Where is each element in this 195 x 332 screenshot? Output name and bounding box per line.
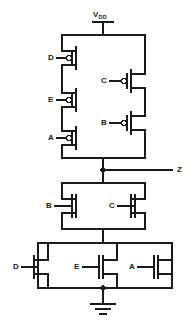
nmos-a-label: A [129,263,135,271]
pmos-a-gate-bubble-icon [67,136,72,141]
vdd-label: VDD [93,11,107,19]
pmos-e-gate-bubble-icon [67,98,72,103]
circuit-schematic [0,0,195,332]
pmos-b-label: B [101,119,107,127]
output-z-label: Z [177,166,182,174]
pmos-b-gate-bubble-icon [122,121,127,126]
pmos-c-gate-bubble-icon [122,79,127,84]
pmos-a-label: A [48,134,54,142]
nmos-b-label: B [46,202,52,210]
schematic-canvas: VDD D E A C B Z B C D E A [0,0,195,332]
pmos-d-gate-bubble-icon [67,56,72,61]
pmos-e-label: E [48,96,54,104]
nmos-e-label: E [74,263,80,271]
vdd-label-main: V [93,10,99,19]
nmos-c-label: C [109,202,115,210]
pmos-d-label: D [48,54,54,62]
nmos-d-label: D [13,263,19,271]
vdd-label-subscript: DD [99,14,107,20]
pmos-c-label: C [101,77,107,85]
